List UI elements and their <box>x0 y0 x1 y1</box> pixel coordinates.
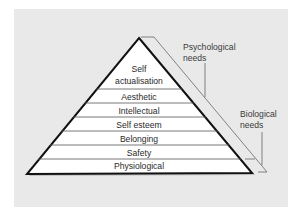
level-physiological: Physiological <box>114 161 164 171</box>
biological-needs-label-line2: needs <box>240 120 263 130</box>
biological-needs-label-line1: Biological <box>240 109 277 119</box>
level-intellectual: Intellectual <box>118 106 159 116</box>
level-self-actualisation-line2: actualisation <box>115 76 163 86</box>
level-self-actualisation-line1: Self <box>132 64 147 74</box>
psychological-needs-label-line1: Psychological <box>183 42 236 52</box>
level-safety: Safety <box>127 148 152 158</box>
psychological-needs-label-line2: needs <box>183 53 206 63</box>
level-aesthetic: Aesthetic <box>121 92 157 102</box>
level-belonging: Belonging <box>120 134 158 144</box>
pyramid-diagram: Self actualisation Aesthetic Intellectua… <box>0 0 302 212</box>
level-self-esteem: Self esteem <box>116 120 161 130</box>
